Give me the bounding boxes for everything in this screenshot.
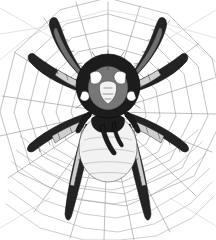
spider-web-illustration bbox=[0, 0, 216, 240]
illustration-canvas bbox=[0, 0, 216, 240]
